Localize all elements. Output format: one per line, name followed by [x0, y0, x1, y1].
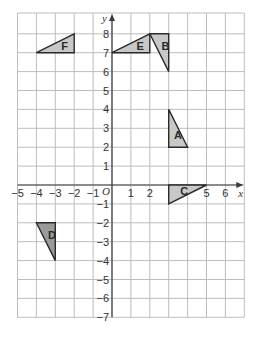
x-tick-label: −3 — [49, 187, 62, 199]
y-tick-label: −1 — [96, 198, 109, 210]
origin-label: O — [102, 185, 110, 197]
y-tick-label: 6 — [103, 66, 109, 78]
x-tick-label: 5 — [203, 187, 209, 199]
x-tick-label: 2 — [147, 187, 153, 199]
x-tick-label: −4 — [30, 187, 43, 199]
coordinate-grid-diagram: x y O −5−4−3−2−1125687654321−1−2−3−4−5−6… — [0, 0, 259, 337]
y-tick-label: −5 — [96, 274, 109, 286]
y-tick-label: 1 — [103, 160, 109, 172]
y-tick-label: −3 — [96, 236, 109, 248]
y-tick-label: 3 — [103, 122, 109, 134]
y-tick-label: 7 — [103, 47, 109, 59]
y-tick-label: 8 — [103, 28, 109, 40]
triangle-label: E — [137, 40, 144, 52]
grid-lines — [18, 13, 245, 317]
y-tick-label: 4 — [103, 103, 109, 115]
y-tick-label: 5 — [103, 85, 109, 97]
triangle-label: A — [174, 129, 182, 141]
x-axis-label: x — [237, 187, 243, 199]
y-axis-arrow-icon — [109, 14, 115, 21]
triangle-label: F — [61, 40, 68, 52]
y-tick-label: −6 — [96, 292, 109, 304]
tick-labels: −5−4−3−2−1125687654321−1−2−3−4−5−6−7 — [11, 28, 228, 324]
triangle-label: B — [161, 40, 169, 52]
x-tick-label: −2 — [68, 187, 81, 199]
x-tick-label: 1 — [128, 187, 134, 199]
y-tick-label: 2 — [103, 141, 109, 153]
y-tick-label: −7 — [96, 311, 109, 323]
y-tick-label: −4 — [96, 255, 109, 267]
triangle-label: D — [48, 229, 56, 241]
x-tick-label: −5 — [11, 187, 24, 199]
triangle-label: C — [180, 185, 188, 197]
y-axis-label: y — [101, 12, 107, 24]
x-tick-label: 6 — [222, 187, 228, 199]
y-tick-label: −2 — [96, 217, 109, 229]
